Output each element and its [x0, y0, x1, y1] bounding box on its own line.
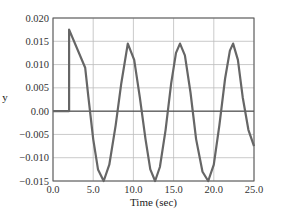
y-tick-label: 0.00 [31, 106, 49, 117]
y-tick-label: −0.005 [19, 129, 49, 140]
y-tick-label: 0.005 [25, 82, 49, 93]
line-chart: 0.05.010.015.020.025.0 0.0200.0150.0100.… [0, 0, 283, 224]
x-axis-tick-labels: 0.05.010.015.020.025.0 [46, 184, 263, 195]
y-tick-label: 0.020 [25, 13, 49, 24]
x-axis-label: Time (sec) [130, 196, 177, 209]
y-tick-label: 0.015 [25, 36, 49, 47]
data-series-y [53, 30, 254, 181]
x-tick-label: 5.0 [87, 184, 100, 195]
y-tick-label: −0.015 [19, 176, 49, 187]
y-tick-label: 0.010 [25, 59, 49, 70]
x-tick-label: 25.0 [245, 184, 263, 195]
plot-frame [53, 18, 254, 181]
x-tick-label: 15.0 [164, 184, 182, 195]
x-tick-label: 20.0 [205, 184, 223, 195]
y-axis-label: y [2, 91, 8, 103]
y-axis-tick-labels: 0.0200.0150.0100.0050.00−0.005−0.010−0.0… [19, 13, 49, 187]
grid-lines [53, 18, 254, 181]
y-tick-label: −0.010 [19, 152, 49, 163]
x-tick-label: 10.0 [124, 184, 142, 195]
